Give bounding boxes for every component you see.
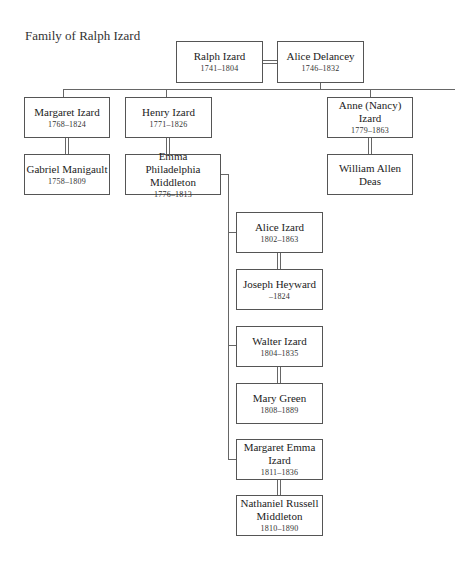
- branch-margaret-emma: [228, 459, 236, 460]
- person-name: Gabriel Manigault: [27, 163, 108, 176]
- person-dates: 1810–1890: [261, 523, 299, 534]
- person-dates: 1776–1813: [154, 189, 192, 200]
- person-dates: 1779–1863: [351, 125, 389, 136]
- marriage-connector-walter-mary: [277, 366, 281, 383]
- person-dates: 1771–1826: [150, 119, 188, 130]
- person-margaret-emma-izard: Margaret Emma Izard 1811–1836: [236, 439, 323, 480]
- person-name: Alice Delancey: [286, 50, 354, 63]
- person-nathaniel-russell-middleton: Nathaniel Russell Middleton 1810–1890: [236, 495, 323, 536]
- diagram-title: Family of Ralph Izard: [25, 28, 140, 44]
- marriage-connector-margaret-gabriel: [65, 137, 69, 154]
- person-gabriel-manigault: Gabriel Manigault 1758–1809: [24, 154, 110, 195]
- person-name: Ralph Izard: [194, 50, 246, 63]
- person-name: Anne (Nancy) Izard: [334, 99, 406, 125]
- person-name: Margaret Izard: [34, 106, 99, 119]
- person-dates: –1824: [269, 291, 290, 302]
- person-ralph-izard: Ralph Izard 1741–1804: [176, 41, 263, 83]
- person-name: Margaret Emma Izard: [241, 441, 318, 467]
- person-dates: 1741–1804: [201, 63, 239, 74]
- marriage-connector-margaret-emma-nathaniel: [277, 479, 281, 495]
- branch-walter: [228, 345, 236, 346]
- person-walter-izard: Walter Izard 1804–1835: [236, 326, 323, 367]
- person-name: Henry Izard: [142, 106, 195, 119]
- person-name: Emma Philadelphia Middleton: [130, 150, 216, 189]
- person-dates: 1768–1824: [48, 119, 86, 130]
- person-dates: 1802–1863: [261, 234, 299, 245]
- person-henry-izard: Henry Izard 1771–1826: [125, 97, 212, 138]
- person-dates: 1758–1809: [48, 176, 86, 187]
- person-alice-delancey: Alice Delancey 1746–1832: [277, 41, 364, 83]
- branch-alice: [228, 232, 236, 233]
- person-name: Mary Green: [253, 392, 306, 405]
- person-dates: 1804–1835: [261, 348, 299, 359]
- drop-line-margaret: [63, 89, 64, 97]
- person-dates: 1811–1836: [261, 467, 299, 478]
- marriage-connector-ralph-alice: [262, 60, 277, 64]
- person-dates: 1746–1832: [302, 63, 340, 74]
- person-emma-philadelphia-middleton: Emma Philadelphia Middleton 1776–1813: [125, 154, 221, 195]
- descent-line-henry-v: [228, 174, 229, 460]
- person-alice-izard: Alice Izard 1802–1863: [236, 212, 323, 253]
- marriage-connector-alice-joseph: [277, 252, 281, 269]
- drop-line-henry: [166, 89, 167, 97]
- person-mary-green: Mary Green 1808–1889: [236, 383, 323, 424]
- person-joseph-heyward: Joseph Heyward –1824: [236, 269, 323, 310]
- person-margaret-izard: Margaret Izard 1768–1824: [24, 97, 110, 138]
- person-name: Walter Izard: [252, 335, 306, 348]
- person-william-allen-deas: William Allen Deas: [327, 154, 413, 195]
- person-name: Nathaniel Russell Middleton: [240, 497, 319, 523]
- person-dates: 1808–1889: [261, 405, 299, 416]
- drop-line-anne: [370, 89, 371, 97]
- person-name: Alice Izard: [255, 221, 304, 234]
- person-anne-nancy-izard: Anne (Nancy) Izard 1779–1863: [327, 97, 413, 138]
- person-name: Joseph Heyward: [243, 278, 316, 291]
- sibling-bar-generation-2: [63, 89, 455, 90]
- marriage-connector-anne-william: [368, 137, 372, 154]
- person-name: William Allen Deas: [338, 162, 402, 188]
